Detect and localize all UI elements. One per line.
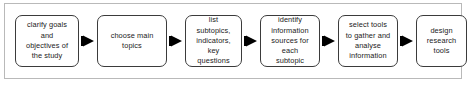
arrow-right-triangle-icon <box>167 15 185 67</box>
arrow-right-triangle-icon <box>79 15 97 67</box>
arrow-right-triangle-icon <box>320 15 338 67</box>
arrow-right-triangle-icon <box>242 15 260 67</box>
arrow-right-triangle-icon <box>398 15 416 67</box>
flowchart-frame: clarify goals and objectives of the stud… <box>4 3 462 79</box>
flowchart-node-step-4[interactable]: identify information sources for each su… <box>260 15 320 67</box>
flowchart-node-step-1[interactable]: clarify goals and objectives of the stud… <box>15 15 79 67</box>
flowchart-node-step-5[interactable]: select tools to gather and analyse infor… <box>338 15 398 67</box>
flowchart-node-label: design research tools <box>427 26 456 57</box>
flowchart-node-label: list subtopics, indicators, key question… <box>196 15 231 66</box>
flowchart-node-step-3[interactable]: list subtopics, indicators, key question… <box>185 15 242 67</box>
flowchart-node-label: identify information sources for each su… <box>271 15 308 66</box>
flowchart-node-label: select tools to gather and analyse infor… <box>346 20 391 61</box>
flowchart-node-label: choose main topics <box>111 31 154 52</box>
flowchart-node-label: clarify goals and objectives of the stud… <box>26 20 68 61</box>
flowchart-sequence: clarify goals and objectives of the stud… <box>5 4 461 78</box>
flowchart-node-step-2[interactable]: choose main topics <box>97 15 167 67</box>
flowchart-node-step-6[interactable]: design research tools <box>416 15 467 67</box>
